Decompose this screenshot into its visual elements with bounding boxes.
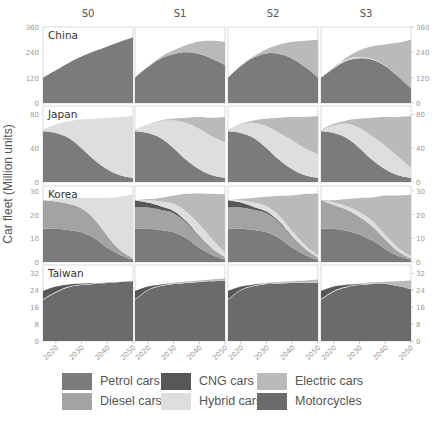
panel-taiwan-s1 <box>135 265 225 341</box>
panel-china-s1 <box>135 27 225 103</box>
x-tick-label: 2020 <box>42 344 60 362</box>
legend-swatch-hybrid <box>161 393 191 410</box>
scenario-header-s2: S2 <box>267 8 280 19</box>
x-tick-label: 2030 <box>160 344 178 362</box>
y-tick-left: 40 <box>30 145 39 153</box>
y-tick-right: 40 <box>416 145 425 153</box>
legend-swatch-petrol <box>62 373 92 390</box>
legend-label-petrol: Petrol cars <box>100 374 160 388</box>
legend-item-cng: CNG cars <box>161 372 254 390</box>
x-tick-label: 2020 <box>320 344 338 362</box>
legend-label-cng: CNG cars <box>199 374 254 388</box>
x-tick-label: 2030 <box>253 344 271 362</box>
panel-china-s0: China <box>43 27 133 103</box>
y-tick-right: 10 <box>416 235 425 243</box>
y-tick-right: 80 <box>416 111 425 119</box>
legend-swatch-motorcycles <box>257 393 287 410</box>
panel-korea-s2 <box>228 186 318 262</box>
y-tick-left: 30 <box>30 188 39 196</box>
y-axis-label: Car fleet (Million units) <box>1 124 15 243</box>
x-tick-label: 2030 <box>346 344 364 362</box>
legend-label-diesel: Diesel cars <box>100 394 162 408</box>
y-tick-left: 20 <box>30 212 39 220</box>
y-tick-left: 360 <box>26 24 39 32</box>
panel-taiwan-s0: Taiwan <box>43 265 133 341</box>
y-tick-left: 0 <box>35 100 39 108</box>
y-tick-left: 120 <box>26 75 39 83</box>
region-label-korea: Korea <box>48 188 78 200</box>
x-tick-label: 2040 <box>278 344 296 362</box>
scenario-header-s1: S1 <box>174 8 187 19</box>
x-tick-label: 2050 <box>211 344 229 362</box>
y-tick-right: 360 <box>416 24 429 32</box>
y-tick-right: 120 <box>416 75 429 83</box>
y-tick-right: 0 <box>416 259 420 267</box>
faceted-area-chart: Car fleet (Million units)S0S1S2S30012012… <box>0 0 436 365</box>
panel-taiwan-s2 <box>228 265 318 341</box>
y-tick-left: 80 <box>30 111 39 119</box>
x-tick-label: 2020 <box>134 344 152 362</box>
x-tick-label: 2050 <box>304 344 322 362</box>
legend-swatch-electric <box>257 373 287 390</box>
y-tick-right: 16 <box>416 304 425 312</box>
y-tick-left: 24 <box>30 287 39 295</box>
scenario-header-s3: S3 <box>360 8 373 19</box>
y-tick-left: 32 <box>30 270 39 278</box>
legend-item-hybrid: Hybrid cars <box>161 392 262 410</box>
y-tick-right: 240 <box>416 49 429 57</box>
region-label-taiwan: Taiwan <box>47 267 84 279</box>
panel-china-s2 <box>228 27 318 103</box>
panel-japan-s2 <box>228 106 318 182</box>
area-motorcycles <box>228 283 318 341</box>
panel-japan-s1 <box>135 106 225 182</box>
x-tick-label: 2040 <box>93 344 111 362</box>
panel-korea-s0: Korea <box>43 186 133 262</box>
panel-korea-s3 <box>321 186 411 262</box>
panel-taiwan-s3 <box>321 265 411 341</box>
y-tick-left: 0 <box>35 338 39 346</box>
y-tick-right: 8 <box>416 321 420 329</box>
legend-item-petrol: Petrol cars <box>62 372 160 390</box>
panel-china-s3 <box>321 27 411 103</box>
y-tick-left: 0 <box>35 259 39 267</box>
legend-item-diesel: Diesel cars <box>62 392 162 410</box>
area-motorcycles <box>321 284 411 341</box>
scenario-header-s0: S0 <box>82 8 95 19</box>
y-tick-left: 240 <box>26 49 39 57</box>
x-tick-label: 2050 <box>119 344 137 362</box>
region-label-china: China <box>48 29 78 41</box>
x-tick-label: 2030 <box>68 344 86 362</box>
y-tick-right: 24 <box>416 287 425 295</box>
y-tick-right: 32 <box>416 270 425 278</box>
legend-label-electric: Electric cars <box>295 374 363 388</box>
x-tick-label: 2040 <box>185 344 203 362</box>
legend-label-hybrid: Hybrid cars <box>199 394 262 408</box>
y-tick-right: 30 <box>416 188 425 196</box>
panel-japan-s3 <box>321 106 411 182</box>
legend-swatch-cng <box>161 373 191 390</box>
region-label-japan: Japan <box>47 108 77 120</box>
legend-item-electric: Electric cars <box>257 372 363 390</box>
y-tick-left: 8 <box>35 321 39 329</box>
y-tick-right: 0 <box>416 179 420 187</box>
panel-japan-s0: Japan <box>43 106 133 182</box>
legend-swatch-diesel <box>62 393 92 410</box>
legend-item-motorcycles: Motorcycles <box>257 392 362 410</box>
y-tick-left: 0 <box>35 179 39 187</box>
y-tick-right: 0 <box>416 338 420 346</box>
x-tick-label: 2040 <box>371 344 389 362</box>
y-tick-right: 0 <box>416 100 420 108</box>
x-tick-label: 2050 <box>397 344 415 362</box>
y-tick-right: 20 <box>416 212 425 220</box>
legend-label-motorcycles: Motorcycles <box>295 394 362 408</box>
y-tick-left: 10 <box>30 235 39 243</box>
panel-korea-s1 <box>135 186 225 262</box>
x-tick-label: 2020 <box>227 344 245 362</box>
y-tick-left: 16 <box>30 304 39 312</box>
